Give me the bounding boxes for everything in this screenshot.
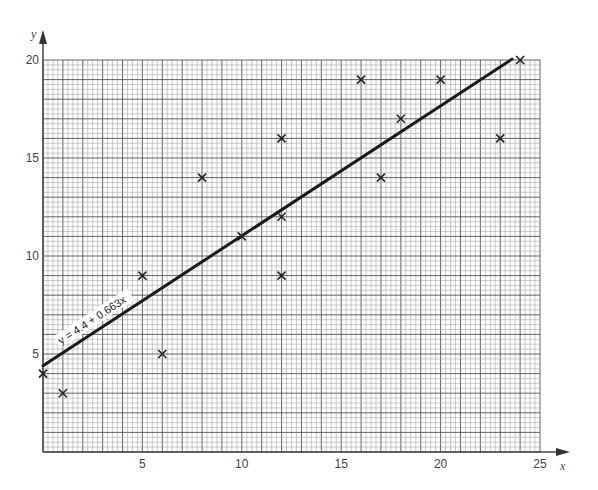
scatter-chart: 5101520255101520 y = 4.4 + 0.663x x y [0, 0, 598, 490]
y-tick-label: 5 [32, 347, 39, 361]
y-axis-label: y [30, 27, 37, 41]
x-tick-label: 25 [533, 457, 547, 471]
x-tick-label: 10 [235, 457, 249, 471]
x-tick-label: 20 [434, 457, 448, 471]
y-tick-label: 20 [26, 53, 40, 67]
x-axis-label: x [559, 459, 566, 473]
x-axis-arrow-icon [556, 448, 570, 456]
y-tick-label: 10 [26, 249, 40, 263]
chart-grid [43, 60, 540, 452]
x-tick-label: 15 [335, 457, 349, 471]
x-tick-label: 5 [139, 457, 146, 471]
y-tick-label: 15 [26, 151, 40, 165]
y-axis-arrow-icon [39, 30, 47, 44]
